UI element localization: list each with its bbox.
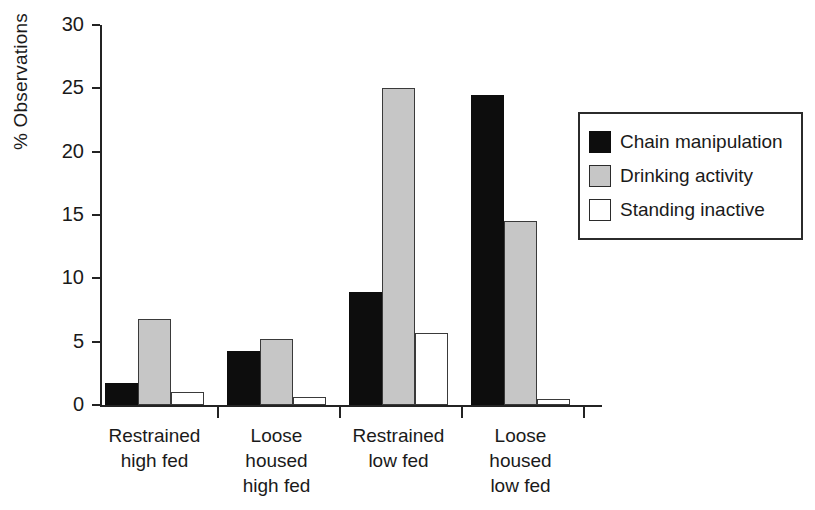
bar (260, 339, 293, 405)
y-axis-tick (92, 404, 100, 406)
bar (227, 351, 260, 405)
chart-figure: % Observations 051015202530 Restrained h… (0, 0, 815, 510)
y-axis-tick (92, 341, 100, 343)
legend-item-label: Chain manipulation (620, 131, 783, 153)
bar (537, 399, 570, 405)
bar (105, 383, 138, 405)
bar (138, 319, 171, 405)
y-axis-tick-label: 0 (38, 394, 84, 414)
y-axis-tick-label: 10 (38, 267, 84, 287)
y-axis-tick-label: 15 (38, 204, 84, 224)
plot-area (100, 25, 602, 405)
y-axis-line (100, 25, 102, 406)
y-axis-tick (92, 277, 100, 279)
y-axis-tick (92, 24, 100, 26)
legend-swatch-white (589, 199, 611, 221)
x-axis-tick (339, 407, 341, 418)
bar (415, 333, 448, 405)
y-axis-tick-label: 5 (38, 331, 84, 351)
legend-swatch-gray (589, 165, 611, 187)
x-axis-tick (583, 407, 585, 418)
bar (293, 397, 326, 405)
legend-item-label: Drinking activity (620, 165, 753, 187)
y-axis-tick-label: 20 (38, 141, 84, 161)
y-axis-label: % Observations (6, 0, 36, 150)
bar (171, 392, 204, 405)
x-axis-category-label: Restrained low fed (331, 423, 466, 473)
x-axis-line (100, 405, 602, 407)
y-axis-tick (92, 151, 100, 153)
legend-item: Drinking activity (589, 159, 791, 193)
y-axis-tick (92, 214, 100, 216)
x-axis-category-label: Loose housed high fed (209, 423, 344, 498)
x-axis-category-label: Restrained high fed (87, 423, 222, 473)
y-axis-tick-label: 30 (38, 14, 84, 34)
x-axis-tick (217, 407, 219, 418)
legend-item-label: Standing inactive (620, 199, 765, 221)
bar (471, 95, 504, 405)
bar (349, 292, 382, 405)
x-axis-tick (461, 407, 463, 418)
legend-item: Chain manipulation (589, 125, 791, 159)
chart-legend: Chain manipulationDrinking activityStand… (578, 112, 803, 240)
legend-item: Standing inactive (589, 193, 791, 227)
bar (504, 221, 537, 405)
y-axis-tick-label: 25 (38, 77, 84, 97)
y-axis-tick (92, 87, 100, 89)
bar (382, 88, 415, 405)
legend-swatch-black (589, 131, 611, 153)
x-axis-category-label: Loose housed low fed (453, 423, 588, 498)
